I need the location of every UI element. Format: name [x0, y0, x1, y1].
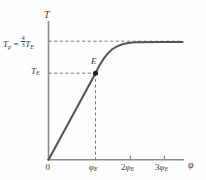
- y-tick-label-te: TE: [31, 67, 40, 76]
- x-tick-label-3phie: 3φE: [155, 163, 168, 172]
- tp-relation: =: [14, 39, 19, 49]
- point-marker-E: [93, 71, 98, 76]
- x-tick-label-phie: φE: [89, 163, 98, 172]
- y-tick-label-tp: Tp=43TE: [3, 35, 34, 50]
- tp-subscript: p: [8, 43, 11, 49]
- tp-factor-subscript: E: [30, 43, 34, 49]
- y-axis-label: T: [44, 10, 50, 20]
- threephie-subscript: E: [164, 166, 168, 172]
- te-subscript: E: [36, 70, 40, 76]
- data-curve: [49, 42, 183, 160]
- annotation-label-E: E: [91, 57, 97, 66]
- phie-subscript: E: [94, 166, 98, 172]
- plot-canvas: [0, 0, 206, 180]
- twophie-subscript: E: [130, 166, 134, 172]
- x-tick-label-2phie: 2φE: [121, 163, 134, 172]
- x-tick-label-0: 0: [46, 163, 51, 172]
- figure-container: T φ Tp=43TE TE E 0 φE 2φE 3φE: [0, 0, 206, 180]
- x-axis-label: φ: [188, 160, 194, 170]
